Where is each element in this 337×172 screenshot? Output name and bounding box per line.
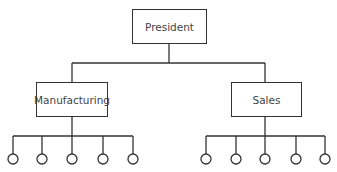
subordinate-node — [37, 154, 47, 164]
president-label: President — [145, 21, 194, 33]
subordinate-node — [260, 154, 270, 164]
subordinate-node — [8, 154, 18, 164]
subordinate-node — [67, 154, 77, 164]
sales-label: Sales — [253, 94, 281, 106]
subordinate-node — [128, 154, 138, 164]
subordinate-node — [291, 154, 301, 164]
subordinate-node — [98, 154, 108, 164]
subordinate-node — [231, 154, 241, 164]
subordinate-node — [201, 154, 211, 164]
manufacturing-label: Manufacturing — [34, 94, 110, 106]
sales-box: Sales — [231, 82, 302, 117]
manufacturing-box: Manufacturing — [36, 82, 108, 117]
president-box: President — [132, 9, 207, 44]
subordinate-node — [320, 154, 330, 164]
